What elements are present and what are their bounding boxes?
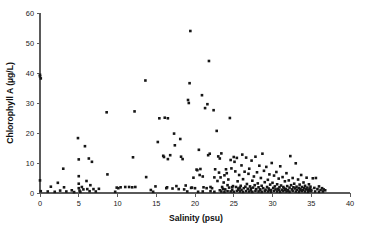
data-point xyxy=(213,191,216,194)
data-point xyxy=(70,189,73,192)
data-point xyxy=(163,156,166,159)
data-point xyxy=(254,155,257,158)
data-point xyxy=(277,177,280,180)
data-point xyxy=(167,158,170,161)
data-point xyxy=(250,159,253,162)
data-point xyxy=(315,177,318,180)
data-point xyxy=(236,157,239,160)
data-point xyxy=(306,186,309,189)
data-point xyxy=(289,155,292,158)
data-point xyxy=(124,186,127,189)
data-point xyxy=(252,186,255,189)
data-point xyxy=(194,187,197,190)
data-point xyxy=(201,190,204,193)
data-point xyxy=(198,149,201,152)
data-point xyxy=(251,179,254,182)
data-point xyxy=(260,185,263,188)
data-point xyxy=(205,187,208,190)
data-point xyxy=(98,188,101,191)
data-point xyxy=(218,171,221,174)
data-point xyxy=(240,189,243,192)
data-point xyxy=(222,188,225,191)
data-point xyxy=(276,183,279,186)
data-point xyxy=(189,30,192,33)
data-point xyxy=(131,186,134,189)
tick-labels: 01020304050600510152025303540 xyxy=(26,9,354,208)
data-point xyxy=(274,185,277,188)
data-point xyxy=(212,109,215,112)
data-point xyxy=(62,167,65,170)
data-point xyxy=(128,186,131,189)
data-point xyxy=(263,170,266,173)
data-point xyxy=(197,191,200,194)
data-point xyxy=(175,185,178,188)
data-point xyxy=(219,176,222,179)
data-point xyxy=(253,184,256,187)
data-point xyxy=(259,189,262,192)
data-point xyxy=(295,185,298,188)
data-point xyxy=(286,185,289,188)
data-point xyxy=(233,161,236,164)
data-point xyxy=(305,176,308,179)
data-point xyxy=(180,155,183,158)
data-point xyxy=(253,175,256,178)
data-point xyxy=(224,188,227,191)
data-point xyxy=(183,188,186,191)
data-point xyxy=(238,174,241,177)
data-point xyxy=(225,172,228,175)
data-point xyxy=(280,184,283,187)
data-point xyxy=(299,189,302,192)
data-point xyxy=(117,187,120,190)
data-point xyxy=(256,182,259,185)
data-point xyxy=(240,164,243,167)
data-point xyxy=(231,189,234,192)
data-point xyxy=(254,190,257,193)
tick-marks xyxy=(37,13,351,197)
data-point xyxy=(50,185,53,188)
data-point xyxy=(269,183,272,186)
data-point xyxy=(284,180,287,183)
y-tick-label: 60 xyxy=(26,9,34,18)
data-point xyxy=(241,153,244,156)
data-point xyxy=(53,191,56,194)
data-point xyxy=(39,179,42,182)
x-tick-label: 25 xyxy=(230,199,238,208)
x-tick-label: 20 xyxy=(191,199,199,208)
data-point xyxy=(95,190,98,193)
data-point xyxy=(268,173,271,176)
x-tick-label: 15 xyxy=(152,199,160,208)
data-point xyxy=(204,107,207,110)
data-point xyxy=(184,184,187,187)
data-point xyxy=(91,161,94,164)
data-point xyxy=(256,171,259,174)
data-point xyxy=(77,187,80,190)
data-point xyxy=(214,168,217,171)
data-point xyxy=(198,174,201,177)
data-point xyxy=(179,138,182,141)
data-point xyxy=(229,117,232,120)
x-tick-label: 0 xyxy=(38,199,42,208)
x-tick-label: 35 xyxy=(307,199,315,208)
data-point xyxy=(261,152,264,155)
data-point xyxy=(223,191,226,194)
data-point xyxy=(106,173,109,176)
data-point xyxy=(275,171,278,174)
data-point xyxy=(247,173,250,176)
data-point xyxy=(281,176,284,179)
data-point xyxy=(235,186,238,189)
data-point xyxy=(152,191,155,194)
data-point xyxy=(258,164,261,167)
data-point xyxy=(304,185,307,188)
y-tick-label: 50 xyxy=(26,39,34,48)
data-point xyxy=(213,176,216,179)
data-point xyxy=(220,152,223,155)
data-point xyxy=(302,181,305,184)
data-point xyxy=(39,190,42,193)
data-point xyxy=(77,182,80,185)
data-point xyxy=(211,187,214,190)
data-point xyxy=(219,189,222,192)
data-point xyxy=(92,188,95,191)
data-point xyxy=(171,187,174,190)
data-point xyxy=(277,189,280,192)
y-tick-label: 20 xyxy=(26,129,34,138)
